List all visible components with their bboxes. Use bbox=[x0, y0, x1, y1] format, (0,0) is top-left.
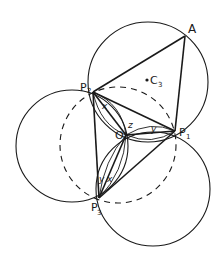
label-y-right: y bbox=[150, 124, 157, 134]
label-c3-sub: 3 bbox=[158, 81, 162, 89]
label-z: z bbox=[127, 120, 133, 130]
label-p2-sub: 2 bbox=[87, 87, 91, 95]
circle-left bbox=[16, 90, 128, 202]
geometry-diagram: A P 2 P 1 P 3 O C 3 x z y y x bbox=[0, 0, 224, 262]
label-p3-sub: 3 bbox=[97, 209, 101, 217]
label-p1: P bbox=[179, 126, 186, 139]
label-p2: P bbox=[80, 81, 87, 94]
label-a: A bbox=[188, 22, 197, 36]
label-p1-sub: 1 bbox=[186, 133, 190, 141]
label-c3: C bbox=[150, 74, 158, 87]
circle-c3 bbox=[88, 22, 208, 142]
line-o-p3 bbox=[99, 135, 126, 198]
point-o bbox=[125, 134, 128, 137]
label-y-bottom: y bbox=[98, 174, 105, 184]
label-o: O bbox=[115, 129, 124, 142]
line-p2-p1 bbox=[93, 92, 175, 131]
point-c3 bbox=[145, 78, 148, 81]
line-a-p1 bbox=[175, 36, 185, 131]
label-x-top: x bbox=[101, 101, 108, 111]
line-p2-a bbox=[93, 36, 185, 92]
circle-bottom-right bbox=[96, 132, 210, 246]
label-x-bottom: x bbox=[106, 174, 113, 184]
